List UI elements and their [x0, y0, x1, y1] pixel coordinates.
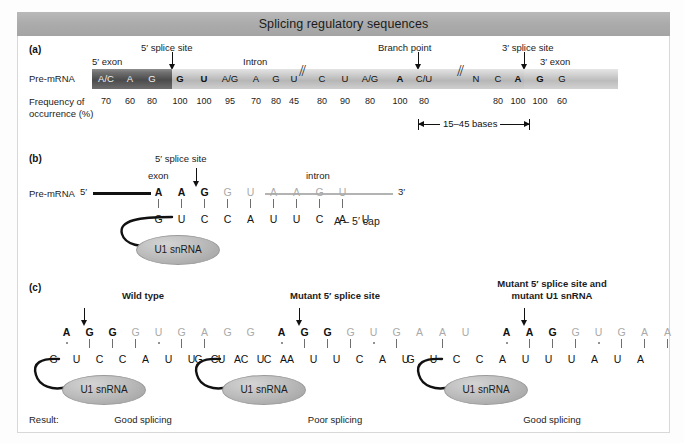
- panel-c-premrna-base: G: [546, 326, 559, 338]
- panel-c-case-title: Mutant 5′ splice site: [250, 290, 420, 301]
- panel-c-u1-snrna-label: U1 snRNA: [445, 376, 527, 404]
- panel-c-splice-arrow-icon: [524, 308, 525, 321]
- panel-c-premrna-base: G: [83, 326, 96, 338]
- panel-c-base-pair-bond: [327, 339, 328, 348]
- panel-c-case-title-line2: mutant U1 snRNA: [452, 290, 652, 301]
- panel-c-snrna-base: C: [353, 353, 366, 365]
- panel-c-premrna-base: G: [106, 326, 119, 338]
- panel-c-base-pair-bond: [529, 339, 530, 348]
- panel-c-premrna-base: G: [244, 326, 257, 338]
- panel-c-snrna-base: U: [162, 353, 175, 365]
- panel-c-premrna-base: U: [152, 326, 165, 338]
- panel-c-snrna-base: A: [139, 353, 152, 365]
- panel-c-base-pair-weak-bond: [66, 342, 68, 344]
- panel-c-base-pair-weak-bond: [281, 342, 283, 344]
- panel-c-premrna-base: A: [500, 326, 513, 338]
- panel-c-premrna-base: G: [221, 326, 234, 338]
- panel-c-premrna-base: A: [638, 326, 651, 338]
- panel-c-snrna-base: A: [284, 353, 297, 365]
- panel-c-base-pair-weak-bond: [598, 342, 600, 344]
- panel-c-premrna-base: A: [523, 326, 536, 338]
- panel-c-base-pair-bond: [396, 339, 397, 348]
- panel-c-case-title: Wild type: [73, 290, 213, 301]
- panel-c-result-value: Good splicing: [73, 414, 213, 425]
- panel-c-snrna-base: A: [376, 353, 389, 365]
- panel-c-snrna-base: U: [519, 353, 532, 365]
- panel-c-base-pair-bond: [204, 339, 205, 348]
- panel-c-base-pair-bond: [575, 339, 576, 348]
- panel-c-premrna-base: G: [175, 326, 188, 338]
- panel-c-premrna-base: G: [129, 326, 142, 338]
- panel-c-snrna-base: U: [542, 353, 555, 365]
- panel-c-u1-snrna-label: U1 snRNA: [223, 376, 305, 404]
- panel-c-premrna-base: U: [592, 326, 605, 338]
- panel-c-base-pair-weak-bond: [373, 342, 375, 344]
- panel-c-base-pair-bond: [552, 339, 553, 348]
- panel-c-snrna-base: U: [565, 353, 578, 365]
- panel-c-u1-snrna-oval: U1 snRNA: [62, 375, 146, 405]
- panel-c-base-pair-weak-bond: [506, 342, 508, 344]
- panel-c-splice-arrow-icon: [84, 308, 85, 321]
- panel-c-result-value: Good splicing: [452, 414, 652, 425]
- panel-c-premrna-base: A: [275, 326, 288, 338]
- panel-c-base-pair-bond: [442, 339, 443, 348]
- panel-c-splice-arrow-icon: [299, 308, 300, 321]
- panel-c: (c) Result: Wild typeAGGGUGAGGGUCCAUUCAU…: [0, 0, 684, 443]
- panel-c-premrna-base: G: [615, 326, 628, 338]
- panel-c-base-pair-weak-bond: [158, 342, 160, 344]
- panel-c-result-value: Poor splicing: [250, 414, 420, 425]
- panel-c-snrna-base: A: [496, 353, 509, 365]
- panel-c-premrna-base: G: [344, 326, 357, 338]
- panel-c-base-pair-bond: [644, 339, 645, 348]
- panel-c-base-pair-bond: [621, 339, 622, 348]
- panel-c-snrna-base: A: [634, 353, 647, 365]
- panel-c-base-pair-bond: [112, 339, 113, 348]
- panel-c-premrna-base: G: [569, 326, 582, 338]
- panel-c-base-pair-bond: [667, 339, 668, 348]
- figure-root: Splicing regulatory sequences (a) 5′ spl…: [0, 0, 684, 443]
- panel-c-snrna-base: U: [307, 353, 320, 365]
- panel-c-u1-snrna-label: U1 snRNA: [63, 376, 145, 404]
- panel-c-base-pair-bond: [135, 339, 136, 348]
- panel-c-premrna-base: A: [60, 326, 73, 338]
- panel-c-base-pair-bond: [350, 339, 351, 348]
- panel-c-base-pair-bond: [181, 339, 182, 348]
- panel-c-premrna-base: A: [661, 326, 674, 338]
- panel-c-base-pair-bond: [304, 339, 305, 348]
- panel-c-result-label: Result:: [29, 414, 59, 425]
- panel-c-u1-snrna-oval: U1 snRNA: [444, 375, 528, 405]
- panel-c-premrna-base: A: [436, 326, 449, 338]
- panel-c-base-pair-bond: [89, 339, 90, 348]
- panel-c-premrna-base: G: [321, 326, 334, 338]
- panel-c-premrna-base: G: [390, 326, 403, 338]
- panel-c-snrna-base: U: [611, 353, 624, 365]
- panel-c-tag: (c): [29, 282, 41, 293]
- panel-c-premrna-base: A: [413, 326, 426, 338]
- panel-c-premrna-base: A: [198, 326, 211, 338]
- panel-c-snrna-base: A: [588, 353, 601, 365]
- panel-c-premrna-base: G: [298, 326, 311, 338]
- panel-c-case-title: Mutant 5′ splice site and: [452, 278, 652, 289]
- panel-c-u1-snrna-oval: U1 snRNA: [222, 375, 306, 405]
- panel-c-snrna-base: C: [116, 353, 129, 365]
- panel-c-snrna-base: U: [330, 353, 343, 365]
- panel-c-premrna-base: U: [367, 326, 380, 338]
- panel-c-premrna-base: U: [459, 326, 472, 338]
